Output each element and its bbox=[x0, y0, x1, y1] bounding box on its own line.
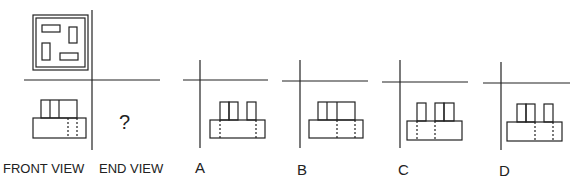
top-view-rect-top-right bbox=[69, 27, 77, 43]
end-view-label: END VIEW bbox=[99, 161, 163, 176]
option-d-drawing[interactable] bbox=[483, 62, 570, 150]
drawing-canvas bbox=[0, 0, 572, 180]
top-view-rect-bottom-right bbox=[60, 53, 78, 60]
top-view-rect-bottom-left bbox=[42, 43, 50, 60]
option-a-drawing[interactable] bbox=[183, 60, 268, 148]
end-view-question-mark: ? bbox=[119, 111, 130, 134]
option-c-drawing[interactable] bbox=[382, 60, 468, 148]
top-view-rect-top-left bbox=[42, 25, 60, 32]
option-c-label[interactable]: C bbox=[398, 161, 409, 178]
front-view bbox=[33, 100, 86, 138]
top-view bbox=[33, 15, 88, 70]
option-d-label[interactable]: D bbox=[499, 162, 510, 179]
option-b-label[interactable]: B bbox=[297, 161, 307, 178]
option-b-drawing[interactable] bbox=[282, 60, 368, 148]
option-a-label[interactable]: A bbox=[195, 159, 205, 176]
front-view-label: FRONT VIEW bbox=[3, 161, 84, 176]
